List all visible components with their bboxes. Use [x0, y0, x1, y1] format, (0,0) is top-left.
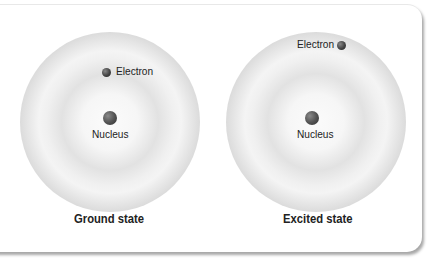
nucleus-label: Nucleus	[92, 128, 129, 140]
ground-state-title: Ground state	[74, 212, 144, 226]
electron-sphere	[337, 41, 346, 50]
electron-label: Electron	[116, 65, 153, 77]
excited-state-title: Excited state	[283, 212, 352, 226]
nucleus-sphere	[305, 111, 319, 125]
nucleus-sphere	[103, 111, 117, 125]
electron-sphere	[102, 68, 111, 77]
nucleus-label: Nucleus	[297, 128, 334, 140]
electron-label: Electron	[297, 38, 334, 50]
